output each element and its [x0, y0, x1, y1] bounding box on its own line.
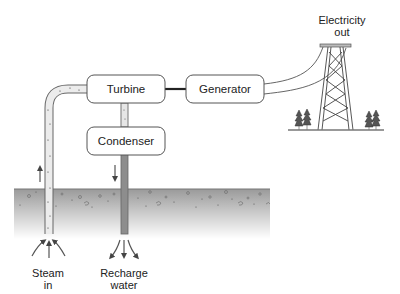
steam-label-line2: in [44, 279, 53, 291]
generator-label: Generator [199, 83, 251, 95]
trees-right [365, 110, 380, 130]
trees-left [295, 109, 311, 130]
steam-in-arrow-right-icon [54, 241, 65, 256]
electricity-label-line1: Electricity [318, 14, 366, 26]
recharge-pipe [121, 149, 128, 234]
electricity-label-line2: out [334, 26, 349, 38]
transmission-tower [318, 44, 353, 130]
steam-label-line1: Steam [32, 267, 64, 279]
steam-in-arrow-left-icon [32, 241, 44, 256]
geothermal-diagram: Turbine Generator Condenser [0, 0, 400, 294]
turbine-condenser-pipe [121, 103, 128, 127]
condenser-box: Condenser [87, 127, 165, 155]
recharge-label-line2: water [110, 279, 138, 291]
generator-box: Generator [186, 75, 264, 103]
recharge-arrow-left-icon [111, 240, 120, 257]
turbine-label: Turbine [107, 83, 146, 95]
recharge-label-line1: Recharge [100, 267, 148, 279]
turbine-box: Turbine [87, 75, 165, 103]
condenser-label: Condenser [98, 135, 154, 147]
recharge-arrow-right-icon [128, 240, 137, 257]
